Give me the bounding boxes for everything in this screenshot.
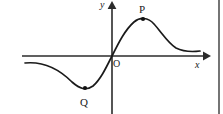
figure-container: y x O P Q xyxy=(0,0,223,114)
y-axis-arrowhead xyxy=(108,1,117,9)
x-axis-arrowhead xyxy=(203,52,211,61)
y-axis-label: y xyxy=(100,0,104,10)
point-label-q: Q xyxy=(80,97,88,108)
graph-canvas xyxy=(0,0,223,114)
point-label-p: P xyxy=(139,4,145,15)
point-marker-p xyxy=(141,17,145,21)
x-axis-label: x xyxy=(195,60,199,70)
origin-label: O xyxy=(113,59,120,69)
point-marker-q xyxy=(83,86,87,90)
